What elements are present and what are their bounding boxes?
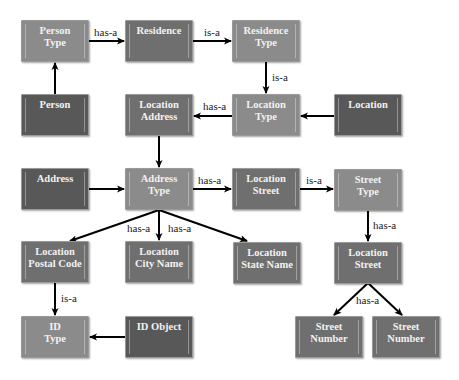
node-location-postal-code: Location Postal Code xyxy=(21,241,89,283)
node-location-type: Location Type xyxy=(232,94,300,136)
node-label: Location xyxy=(335,99,401,111)
node-street-type: Street Type xyxy=(334,169,402,211)
node-label: Location Address xyxy=(126,99,192,123)
node-id-object: ID Object xyxy=(125,316,193,358)
node-label: Location State Name xyxy=(234,247,300,271)
node-location-address: Location Address xyxy=(125,94,193,136)
node-id-type: ID Type xyxy=(21,316,89,358)
edge-label-has-a: has-a xyxy=(373,219,396,231)
node-street-number-2: Street Number xyxy=(372,316,440,358)
node-label: Address xyxy=(22,173,88,185)
node-location-street: Location Street xyxy=(232,168,300,210)
node-person: Person xyxy=(21,94,89,136)
node-street-number-1: Street Number xyxy=(295,316,363,358)
node-label: Location City Name xyxy=(126,246,192,270)
node-label: Location Type xyxy=(233,99,299,123)
node-label: ID Type xyxy=(22,321,88,345)
node-label: Location Postal Code xyxy=(22,246,88,270)
edge-label-has-a: has-a xyxy=(198,174,221,186)
edge-label-is-a: is-a xyxy=(306,174,322,186)
edge-label-has-a: has-a xyxy=(168,222,191,234)
node-residence-type: Residence Type xyxy=(232,20,300,62)
edge-label-has-a: has-a xyxy=(203,100,226,112)
edge-label-is-a: is-a xyxy=(61,292,77,304)
node-label: Residence xyxy=(126,25,192,37)
node-label: Person xyxy=(22,99,88,111)
node-residence: Residence xyxy=(125,20,193,62)
node-location: Location xyxy=(334,94,402,136)
node-label: Person Type xyxy=(22,25,88,49)
edge-label-has-a: has-a xyxy=(94,26,117,38)
edge-label-is-a: is-a xyxy=(272,71,288,83)
node-label: Street Number xyxy=(373,321,439,345)
node-label: Location Street xyxy=(233,173,299,197)
node-location-state-name: Location State Name xyxy=(233,242,301,284)
node-label: ID Object xyxy=(126,321,192,333)
edge-label-has-a: has-a xyxy=(356,294,379,306)
node-location-street-2: Location Street xyxy=(334,242,402,284)
node-person-type: Person Type xyxy=(21,20,89,62)
edge-label-has-a: has-a xyxy=(127,222,150,234)
node-label: Street Number xyxy=(296,321,362,345)
node-label: Address Type xyxy=(126,173,192,197)
node-location-city-name: Location City Name xyxy=(125,241,193,283)
node-label: Street Type xyxy=(335,174,401,198)
node-address-type: Address Type xyxy=(125,168,193,210)
node-label: Residence Type xyxy=(233,25,299,49)
edge-label-is-a: is-a xyxy=(204,26,220,38)
node-address: Address xyxy=(21,168,89,210)
node-label: Location Street xyxy=(335,247,401,271)
